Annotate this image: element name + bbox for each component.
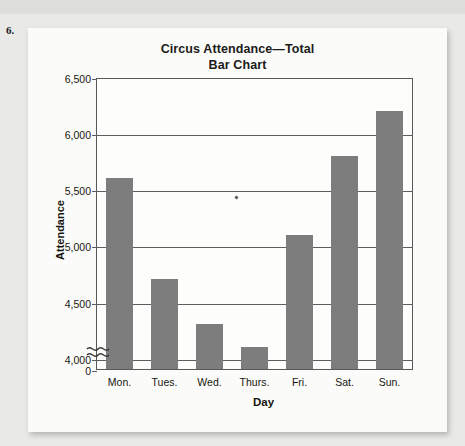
bar-group: Wed.	[187, 79, 232, 369]
y-axis-tick-label: 0	[43, 365, 91, 377]
bars-layer: Mon.Tues.Wed.Thurs.Fri.Sat.Sun.	[97, 79, 412, 369]
x-axis-tick-label: Fri.	[277, 376, 322, 388]
bar	[151, 279, 178, 369]
y-axis-tick-label: 4,500	[43, 298, 91, 310]
bar	[106, 178, 133, 369]
x-axis-tick-label: Sun.	[367, 376, 412, 388]
bar-group: Thurs.	[232, 79, 277, 369]
bar-group: Fri.	[277, 79, 322, 369]
bar-group: Mon.	[97, 79, 142, 369]
y-axis-tick-label: 5,500	[43, 185, 91, 197]
problem-number: 6.	[6, 24, 14, 36]
y-axis-tick-label: 5,000	[43, 241, 91, 253]
x-axis-tick-label: Sat.	[322, 376, 367, 388]
x-axis-tick-label: Thurs.	[232, 376, 277, 388]
y-axis-tick-mark	[92, 371, 97, 372]
y-axis-tick-label: 6,500	[43, 73, 91, 85]
bar	[241, 347, 268, 369]
bar-group: Sun.	[367, 79, 412, 369]
page-top-edge	[0, 0, 465, 14]
y-axis-tick-label: 4,000	[43, 354, 91, 366]
bar	[196, 324, 223, 369]
x-axis-tick-label: Mon.	[97, 376, 142, 388]
bar	[331, 156, 358, 369]
figure-card: Circus Attendance—Total Bar Chart Attend…	[28, 28, 447, 432]
x-axis-tick-label: Tues.	[142, 376, 187, 388]
y-axis-tick-label: 6,000	[43, 129, 91, 141]
axis-break-icon	[86, 343, 110, 361]
x-axis-title: Day	[88, 396, 439, 408]
plot-area: 6,5006,0005,5005,0004,5004,0000 Mon.Tues…	[96, 78, 413, 370]
plot-wrapper: Attendance 6,5006,0005,5005,0004,5004,00…	[28, 28, 447, 432]
bar	[376, 111, 403, 369]
bar-group: Tues.	[142, 79, 187, 369]
x-axis-tick-label: Wed.	[187, 376, 232, 388]
bar-group: Sat.	[322, 79, 367, 369]
bar	[286, 235, 313, 369]
